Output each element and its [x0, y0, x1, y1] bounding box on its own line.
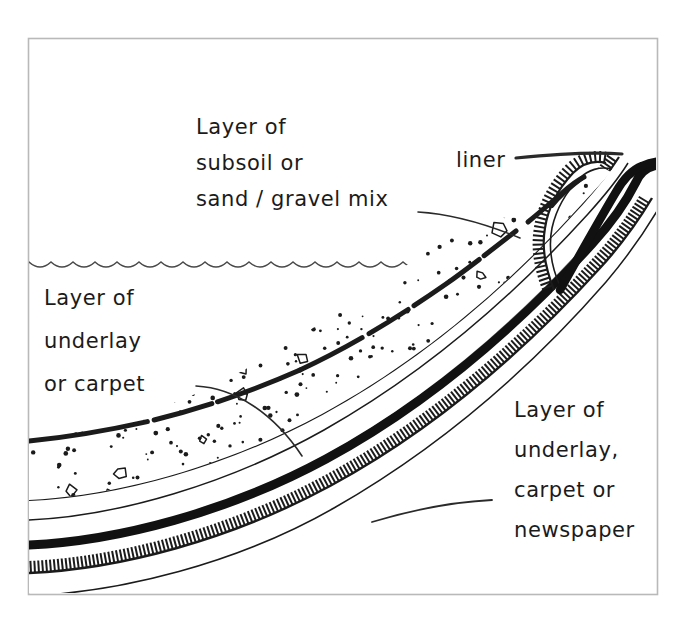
hatch-tooth: [54, 559, 55, 571]
stipple-dot: [346, 336, 349, 339]
stipple-dot: [456, 293, 459, 296]
stipple-dot: [450, 239, 454, 243]
label-underlay-carpet: Layer ofunderlayor carpet: [44, 286, 145, 396]
diagram-root: Layer ofsubsoil orsand / gravel mix line…: [0, 0, 691, 625]
stipple-dot: [348, 321, 351, 324]
stipple-dot: [336, 341, 340, 345]
stipple-dot: [468, 241, 472, 245]
label-subsoil-line-2: subsoil or: [196, 151, 303, 175]
stipple-dot: [437, 245, 441, 249]
stipple-dot: [338, 313, 342, 317]
stipple-dot: [108, 482, 111, 485]
stipple-dot: [362, 315, 364, 317]
stipple-dot: [122, 437, 124, 439]
stipple-dot: [63, 451, 68, 456]
stipple-dot: [412, 347, 416, 351]
stipple-dot: [302, 373, 304, 375]
stipple-dot: [233, 422, 236, 425]
label-underlay-carpet-line-2: underlay: [44, 329, 141, 353]
stipple-dot: [135, 428, 137, 430]
label-underlay-carpet-line-1: Layer of: [44, 286, 134, 310]
stipple-dot: [431, 322, 434, 325]
stipple-dot: [295, 360, 297, 362]
label-subsoil-line-3: sand / gravel mix: [196, 187, 388, 211]
stipple-dot: [236, 403, 238, 405]
stipple-dot: [213, 439, 216, 442]
stipple-dot: [417, 279, 419, 281]
stipple-dot: [31, 450, 35, 454]
stipple-dot: [153, 431, 158, 436]
label-underlay-carpet-newspaper-line-3: carpet or: [514, 478, 615, 502]
stipple-dot: [110, 445, 113, 448]
stipple-dot: [584, 184, 588, 188]
label-liner: liner: [456, 148, 506, 172]
stipple-dot: [335, 382, 337, 384]
hatch-tooth: [42, 560, 43, 572]
stipple-dot: [478, 240, 482, 244]
label-underlay-carpet-newspaper-line-4: newspaper: [514, 518, 635, 542]
hatch-tooth: [34, 561, 35, 573]
stipple-dot: [124, 429, 127, 432]
stipple-dot: [179, 449, 183, 453]
stipple-dot: [239, 415, 242, 418]
hatch-tooth: [30, 561, 31, 573]
stipple-dot: [455, 267, 459, 271]
stipple-dot: [426, 339, 430, 343]
hatch-tooth: [62, 559, 63, 571]
label-underlay-carpet-newspaper-line-2: underlay,: [514, 438, 619, 462]
pond-cross-section-figure: Layer ofsubsoil orsand / gravel mix line…: [0, 0, 691, 625]
hatch-tooth: [38, 560, 39, 572]
stipple-dot: [437, 271, 441, 275]
label-underlay-carpet-line-3: or carpet: [44, 372, 145, 396]
stipple-dot: [408, 346, 412, 350]
stipple-dot: [349, 356, 354, 361]
hatch-tooth: [533, 253, 544, 254]
stipple-dot: [169, 441, 173, 445]
stipple-dot: [57, 486, 59, 488]
stipple-dot: [266, 406, 270, 410]
stipple-dot: [66, 447, 70, 451]
stipple-dot: [116, 433, 121, 438]
stipple-dot: [399, 301, 401, 303]
stipple-dot: [239, 422, 241, 424]
stipple-dot: [381, 316, 384, 319]
stipple-dot: [275, 411, 277, 413]
stipple-dot: [583, 192, 585, 194]
stipple-dot: [296, 413, 299, 416]
stipple-dot: [147, 459, 149, 461]
stipple-dot: [74, 472, 77, 475]
stipple-dot: [188, 400, 192, 404]
stipple-dot: [258, 438, 262, 442]
stipple-dot: [412, 343, 415, 346]
stipple-dot: [359, 349, 362, 352]
stipple-dot: [336, 374, 339, 377]
stipple-dot: [288, 418, 292, 422]
stipple-dot: [184, 452, 189, 457]
stipple-dot: [444, 294, 449, 299]
stipple-dot: [150, 450, 154, 454]
stipple-dot: [136, 476, 140, 480]
stipple-dot: [418, 324, 420, 326]
stipple-dot: [176, 445, 178, 447]
stipple-dot: [284, 346, 288, 350]
label-subsoil-line-1: Layer of: [196, 115, 286, 139]
stipple-dot: [216, 424, 220, 428]
stipple-dot: [370, 355, 373, 358]
hatch-tooth: [533, 231, 544, 232]
hatch-tooth: [58, 559, 59, 571]
stipple-dot: [166, 427, 170, 431]
hatch-tooth: [46, 560, 47, 572]
stipple-dot: [145, 453, 147, 455]
stipple-dot: [217, 457, 219, 459]
stipple-dot: [242, 441, 245, 444]
stipple-dot: [391, 350, 393, 352]
hatch-tooth: [66, 558, 67, 570]
stipple-dot: [228, 444, 231, 447]
hatch-tooth: [533, 235, 544, 236]
stipple-dot: [286, 362, 290, 366]
label-underlay-carpet-newspaper-line-1: Layer of: [514, 398, 604, 422]
stipple-dot: [371, 345, 375, 349]
stipple-dot: [461, 276, 465, 280]
stipple-dot: [220, 427, 223, 430]
stipple-dot: [477, 285, 481, 289]
